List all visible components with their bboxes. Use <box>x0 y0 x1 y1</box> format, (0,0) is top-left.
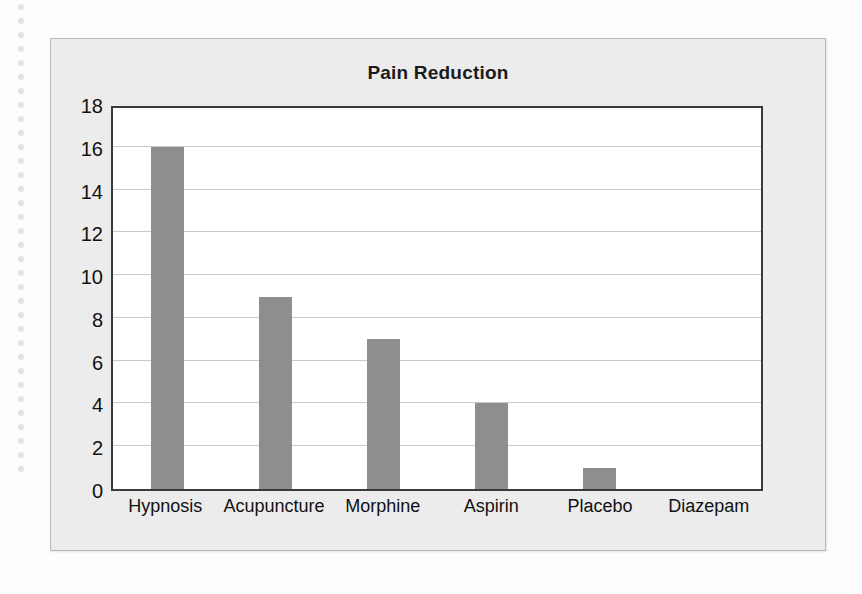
x-axis-label-placebo: Placebo <box>546 496 655 517</box>
decorative-dot <box>18 312 24 318</box>
decorative-dot <box>18 284 24 290</box>
bar-morphine[interactable] <box>367 339 400 489</box>
y-axis-tick-14: 14 <box>59 180 103 204</box>
decorative-dot <box>18 186 24 192</box>
y-axis-tick-8: 8 <box>59 308 103 332</box>
x-axis-label-morphine: Morphine <box>328 496 437 517</box>
x-axis-category-labels: HypnosisAcupunctureMorphineAspirinPlaceb… <box>111 496 763 517</box>
decorative-dot <box>18 354 24 360</box>
decorative-dot <box>18 60 24 66</box>
decorative-dot <box>18 410 24 416</box>
decorative-dot <box>18 340 24 346</box>
y-axis-tick-18: 18 <box>59 94 103 118</box>
decorative-dot <box>18 382 24 388</box>
bar-aspirin[interactable] <box>475 403 508 489</box>
y-axis-tick-4: 4 <box>59 393 103 417</box>
decorative-dot <box>18 466 24 472</box>
x-axis-label-hypnosis: Hypnosis <box>111 496 220 517</box>
plot-wrapper: 181614121086420 <box>111 106 763 491</box>
decorative-dot <box>18 368 24 374</box>
decorative-dot <box>18 326 24 332</box>
decorative-dot-strip <box>16 0 26 594</box>
decorative-dot <box>18 102 24 108</box>
decorative-dot <box>18 270 24 276</box>
decorative-dot <box>18 46 24 52</box>
decorative-dot <box>18 214 24 220</box>
decorative-dot <box>18 438 24 444</box>
y-axis-tick-labels: 181614121086420 <box>59 94 103 479</box>
decorative-dot <box>18 396 24 402</box>
bar-hypnosis[interactable] <box>151 147 184 489</box>
decorative-dot <box>18 228 24 234</box>
plot-area <box>111 106 763 491</box>
bar-slot <box>545 108 653 489</box>
chart-screenshot: Pain Reduction 181614121086420 HypnosisA… <box>0 0 862 594</box>
bar-slot <box>437 108 545 489</box>
y-axis-tick-2: 2 <box>59 436 103 460</box>
y-axis-tick-12: 12 <box>59 222 103 246</box>
bar-acupuncture[interactable] <box>259 297 292 490</box>
decorative-dot <box>18 74 24 80</box>
bar-placebo[interactable] <box>583 468 616 489</box>
chart-panel: Pain Reduction 181614121086420 HypnosisA… <box>50 38 826 551</box>
decorative-dot <box>18 32 24 38</box>
decorative-dot <box>18 116 24 122</box>
bar-slot <box>329 108 437 489</box>
decorative-dot <box>18 424 24 430</box>
y-axis-tick-10: 10 <box>59 265 103 289</box>
decorative-dot <box>18 130 24 136</box>
decorative-dot <box>18 242 24 248</box>
y-axis-tick-16: 16 <box>59 137 103 161</box>
decorative-dot <box>18 158 24 164</box>
bar-slot <box>653 108 761 489</box>
decorative-dot <box>18 172 24 178</box>
decorative-dot <box>18 4 24 10</box>
bar-series <box>113 108 761 489</box>
y-axis-tick-6: 6 <box>59 351 103 375</box>
decorative-dot <box>18 298 24 304</box>
decorative-dot <box>18 256 24 262</box>
decorative-dot <box>18 144 24 150</box>
chart-title: Pain Reduction <box>51 62 825 84</box>
decorative-dot <box>18 200 24 206</box>
decorative-dot <box>18 452 24 458</box>
x-axis-label-aspirin: Aspirin <box>437 496 546 517</box>
x-axis-label-acupuncture: Acupuncture <box>220 496 329 517</box>
x-axis-label-diazepam: Diazepam <box>654 496 763 517</box>
y-axis-tick-0: 0 <box>59 479 103 503</box>
bar-slot <box>221 108 329 489</box>
decorative-dot <box>18 18 24 24</box>
bar-slot <box>113 108 221 489</box>
decorative-dot <box>18 88 24 94</box>
